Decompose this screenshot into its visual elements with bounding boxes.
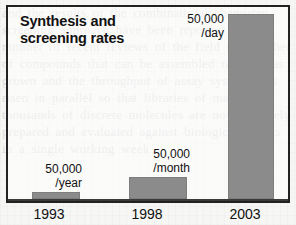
bar-label-1993: 50,000 /year <box>20 162 82 190</box>
x-axis-label-2003: 2003 <box>215 206 275 222</box>
bar-label-1993-line-2: /year <box>20 176 82 190</box>
bar-label-2003-line-1: 50,000 <box>160 12 224 26</box>
bar-1998 <box>129 177 187 199</box>
bar-label-1998: 50,000 /month <box>120 147 190 175</box>
bar-label-2003: 50,000 /day <box>160 12 224 40</box>
bar-label-1998-line-1: 50,000 <box>120 147 190 161</box>
bar-label-2003-line-2: /day <box>160 26 224 40</box>
x-axis-label-1993: 1993 <box>19 206 79 222</box>
bar-2003 <box>228 14 274 199</box>
bar-label-1993-line-1: 50,000 <box>20 162 82 176</box>
chart-baseline-axis <box>8 199 288 201</box>
x-axis-label-1998: 1998 <box>117 206 177 222</box>
chart-frame: Synthesis and screening rates 50,000 /ye… <box>6 5 290 203</box>
chart-plot-area: Synthesis and screening rates 50,000 /ye… <box>8 7 288 201</box>
bar-label-1998-line-2: /month <box>120 161 190 175</box>
bar-1993 <box>32 192 80 199</box>
